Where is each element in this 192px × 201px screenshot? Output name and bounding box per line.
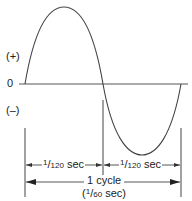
unit: sec	[141, 158, 161, 170]
half-cycle-1-label: 1/120 sec	[42, 159, 85, 170]
arrow-right-icon	[174, 163, 180, 167]
zero-label: 0	[7, 78, 13, 89]
fraction-denominator: 120	[51, 161, 64, 170]
half-cycle-2-label: 1/120 sec	[119, 159, 162, 170]
arrow-left-icon	[26, 163, 32, 167]
arrow-right-icon	[170, 179, 180, 185]
negative-half-cycle-curve	[103, 84, 181, 155]
positive-half-cycle-curve	[25, 7, 103, 84]
fraction-denominator: 60	[93, 190, 102, 199]
fraction-denominator: 120	[128, 161, 141, 170]
arrow-right-icon	[96, 163, 102, 167]
full-cycle-period-label: (1/60 sec)	[82, 188, 126, 199]
full-cycle-label: 1 cycle	[84, 175, 124, 186]
unit: sec)	[102, 187, 126, 199]
arrow-left-icon	[26, 179, 36, 185]
arrow-left-icon	[104, 163, 110, 167]
negative-label: (–)	[6, 105, 19, 116]
unit: sec	[64, 158, 84, 170]
positive-label: (+)	[6, 51, 20, 62]
sine-wave-diagram	[0, 0, 192, 201]
